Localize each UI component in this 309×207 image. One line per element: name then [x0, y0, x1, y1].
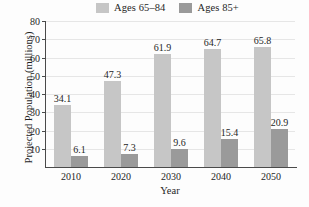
bar: 20.9: [271, 129, 288, 167]
legend-item-ages-65-84: Ages 65–84: [96, 2, 165, 13]
bar: 65.8: [254, 47, 271, 167]
y-tick-label: 30: [30, 107, 40, 118]
x-axis-line: [45, 167, 297, 168]
bar-value-label: 15.4: [221, 127, 239, 138]
y-tick-label: 10: [30, 143, 40, 154]
y-tick-label: 60: [30, 52, 40, 63]
bar-value-label: 7.3: [123, 142, 136, 153]
bar-group: 47.37.3: [104, 21, 138, 167]
bar: 61.9: [154, 54, 171, 167]
x-tick-label: 2040: [211, 171, 231, 182]
y-tick-label: 40: [30, 89, 40, 100]
bar-value-label: 47.3: [104, 69, 122, 80]
bar-value-label: 20.9: [271, 117, 289, 128]
x-tick-label: 2010: [61, 171, 81, 182]
bar: 15.4: [221, 139, 238, 167]
x-tick-label: 2050: [261, 171, 281, 182]
bar-value-label: 64.7: [204, 37, 222, 48]
y-tick-label: 80: [30, 16, 40, 27]
bar-value-label: 9.6: [173, 137, 186, 148]
bar-value-label: 61.9: [154, 42, 172, 53]
chart-legend: Ages 65–84 Ages 85+: [96, 2, 239, 13]
bar-value-label: 6.1: [73, 144, 86, 155]
legend-swatch-ages-85-plus: [179, 3, 192, 13]
legend-item-ages-85-plus: Ages 85+: [179, 2, 238, 13]
bar-group: 65.820.9: [254, 21, 288, 167]
bar: 7.3: [121, 154, 138, 167]
legend-label-ages-85-plus: Ages 85+: [197, 2, 238, 13]
x-tick-label: 2020: [111, 171, 131, 182]
bar-value-label: 34.1: [54, 93, 72, 104]
bar-value-label: 65.8: [254, 35, 272, 46]
y-tick-label: 50: [30, 70, 40, 81]
bar-group: 64.715.4: [204, 21, 238, 167]
bar-groups: 34.16.147.37.361.99.664.715.465.820.9: [46, 21, 295, 167]
bar: 47.3: [104, 81, 121, 167]
x-axis-title: Year: [45, 185, 295, 196]
legend-label-ages-65-84: Ages 65–84: [114, 2, 165, 13]
plot-area: 1020304050607080 34.16.147.37.361.99.664…: [45, 21, 295, 167]
bar-group: 34.16.1: [54, 21, 88, 167]
x-tick-label: 2030: [161, 171, 181, 182]
bar-group: 61.99.6: [154, 21, 188, 167]
y-tick-label: 20: [30, 125, 40, 136]
bar: 6.1: [71, 156, 88, 167]
bar: 9.6: [171, 149, 188, 167]
bar: 34.1: [54, 105, 71, 167]
y-tick-label: 70: [30, 34, 40, 45]
legend-swatch-ages-65-84: [96, 3, 109, 13]
chart-figure: Ages 65–84 Ages 85+ Projected Population…: [0, 0, 309, 207]
bar: 64.7: [204, 49, 221, 167]
